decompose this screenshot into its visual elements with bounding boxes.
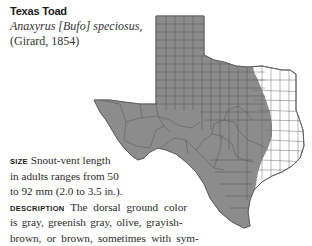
- description-line-2: is gray, greenish gray, olive, grayish-: [10, 215, 183, 231]
- size-label: SIZE: [10, 157, 28, 166]
- size-line-1: SIZE Snout-vent length: [10, 153, 111, 170]
- description-label: DESCRIPTION: [10, 204, 65, 213]
- species-authority: (Girard, 1854): [10, 34, 79, 49]
- size-line-3: to 92 mm (2.0 to 3.5 in.).: [10, 184, 123, 200]
- species-common-name: Texas Toad: [10, 5, 67, 17]
- description-line-1: DESCRIPTION The dorsal ground color: [10, 200, 187, 217]
- species-scientific-name: Anaxyrus [Bufo] speciosus,: [10, 19, 142, 34]
- size-line-2: in adults ranges from 50: [10, 169, 119, 185]
- description-line-3: brown, or brown, sometimes with sym-: [10, 231, 199, 246]
